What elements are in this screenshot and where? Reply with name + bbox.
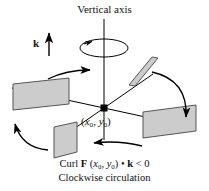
paddle-left (13, 78, 69, 110)
inequality-expression: < 0 (133, 158, 149, 169)
paddle-bottom-right (143, 105, 196, 138)
depth-axis-back (104, 74, 153, 108)
point-y: y (99, 115, 104, 127)
flow-arrow-left-up (15, 124, 48, 150)
flow-arrow-bottom-left (94, 142, 142, 146)
circulation-caption: Clockwise circulation (0, 173, 209, 184)
k-vector-label: k (33, 38, 39, 49)
curl-arg-x-subscript: 0 (98, 163, 101, 170)
point-x-subscript: 0 (90, 121, 94, 129)
paddle-bottom-left (54, 122, 77, 158)
paddle-top-right (129, 57, 158, 86)
dot-product-operator: • (118, 158, 127, 169)
curl-formula-line: Curl F (x0, y0) • k < 0 (0, 159, 209, 170)
point-paren-close: ) (107, 115, 111, 127)
curl-word: Curl (60, 158, 81, 169)
vertical-axis-label: Vertical axis (0, 4, 209, 15)
curl-arg-y-subscript: 0 (111, 163, 114, 170)
point-y-subscript: 0 (104, 121, 108, 129)
origin-point-marker (101, 105, 108, 112)
origin-point-label: (x0, y0) (81, 116, 111, 127)
curl-diagram-figure: Vertical axis k (x0, y0) Curl F (x0, y0)… (0, 0, 209, 191)
point-x: x (85, 115, 90, 127)
